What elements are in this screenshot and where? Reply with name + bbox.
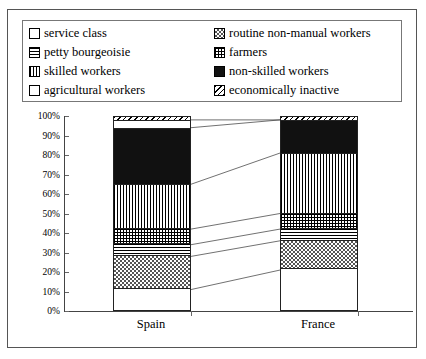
legend-item-petty-bourgeoisie[interactable]: petty bourgeoisie (29, 43, 210, 62)
chart-legend: service classroutine non-manual workersp… (22, 20, 402, 102)
y-axis-tick-10: 10% (43, 287, 65, 297)
y-axis-tick-100: 100% (38, 111, 65, 121)
legend-grid: service classroutine non-manual workersp… (29, 24, 395, 100)
x-axis-label-france: France (263, 317, 373, 332)
x-axis-label-spain: Spain (96, 317, 206, 332)
blank-swatch-icon (29, 28, 40, 39)
legend-item-label: petty bourgeoisie (44, 43, 130, 62)
chart-frame: service classroutine non-manual workersp… (7, 9, 417, 348)
legend-item-non-skilled-workers[interactable]: non-skilled workers (214, 62, 395, 81)
bar-segment-routine-non-manual-workers[interactable] (281, 241, 357, 270)
y-axis-tick-50: 50% (43, 209, 65, 219)
legend-item-farmers[interactable]: farmers (214, 43, 395, 62)
bar-segment-farmers[interactable] (114, 229, 190, 244)
bar-segment-non-skilled-workers[interactable] (281, 121, 357, 154)
diag-swatch-icon (214, 85, 225, 96)
y-axis-tick-40: 40% (43, 228, 65, 238)
bar-segment-skilled-workers[interactable] (114, 185, 190, 229)
y-axis-tick-60: 60% (43, 189, 65, 199)
bar-segment-agricultural-workers[interactable] (114, 121, 190, 129)
legend-item-label: economically inactive (229, 81, 339, 100)
y-axis-tick-30: 30% (43, 248, 65, 258)
x-axis-tick-0 (191, 311, 192, 316)
bar-segment-routine-non-manual-workers[interactable] (114, 256, 190, 289)
y-axis-tick-90: 90% (43, 131, 65, 141)
legend-item-label: agricultural workers (44, 81, 145, 100)
plot-area: 0%10%20%30%40%50%60%70%80%90%100% Spain … (64, 116, 412, 321)
legend-item-label: skilled workers (44, 62, 121, 81)
legend-item-label: farmers (229, 43, 267, 62)
legend-item-label: service class (44, 24, 107, 43)
y-axis-tick-70: 70% (43, 170, 65, 180)
legend-item-label: routine non-manual workers (229, 24, 371, 43)
legend-item-agricultural-workers[interactable]: agricultural workers (29, 81, 210, 100)
bar-france[interactable] (280, 116, 358, 311)
y-axis-tick-0: 0% (47, 306, 65, 316)
dots-light-swatch-icon (29, 85, 40, 96)
checker-swatch-icon (214, 28, 225, 39)
bar-segment-skilled-workers[interactable] (281, 154, 357, 214)
grid-swatch-icon (214, 47, 225, 58)
legend-item-economically-inactive[interactable]: economically inactive (214, 81, 395, 100)
bar-segment-non-skilled-workers[interactable] (114, 129, 190, 185)
axis-area: 0%10%20%30%40%50%60%70%80%90%100% (64, 116, 413, 312)
bar-segment-petty-bourgeoisie[interactable] (114, 244, 190, 256)
y-axis-tick-20: 20% (43, 267, 65, 277)
legend-item-skilled-workers[interactable]: skilled workers (29, 62, 210, 81)
solid-swatch-icon (214, 66, 225, 77)
bar-segment-service-class[interactable] (281, 269, 357, 310)
legend-item-label: non-skilled workers (229, 62, 329, 81)
bar-segment-petty-bourgeoisie[interactable] (281, 229, 357, 241)
x-axis-tick-1 (358, 311, 359, 316)
y-axis-tick-80: 80% (43, 150, 65, 160)
bar-spain[interactable] (113, 116, 191, 311)
vlines-swatch-icon (29, 66, 40, 77)
bar-segment-service-class[interactable] (114, 289, 190, 310)
bar-segment-farmers[interactable] (281, 214, 357, 229)
legend-item-service-class[interactable]: service class (29, 24, 210, 43)
hlines-swatch-icon (29, 47, 40, 58)
legend-item-routine-non-manual-workers[interactable]: routine non-manual workers (214, 24, 395, 43)
